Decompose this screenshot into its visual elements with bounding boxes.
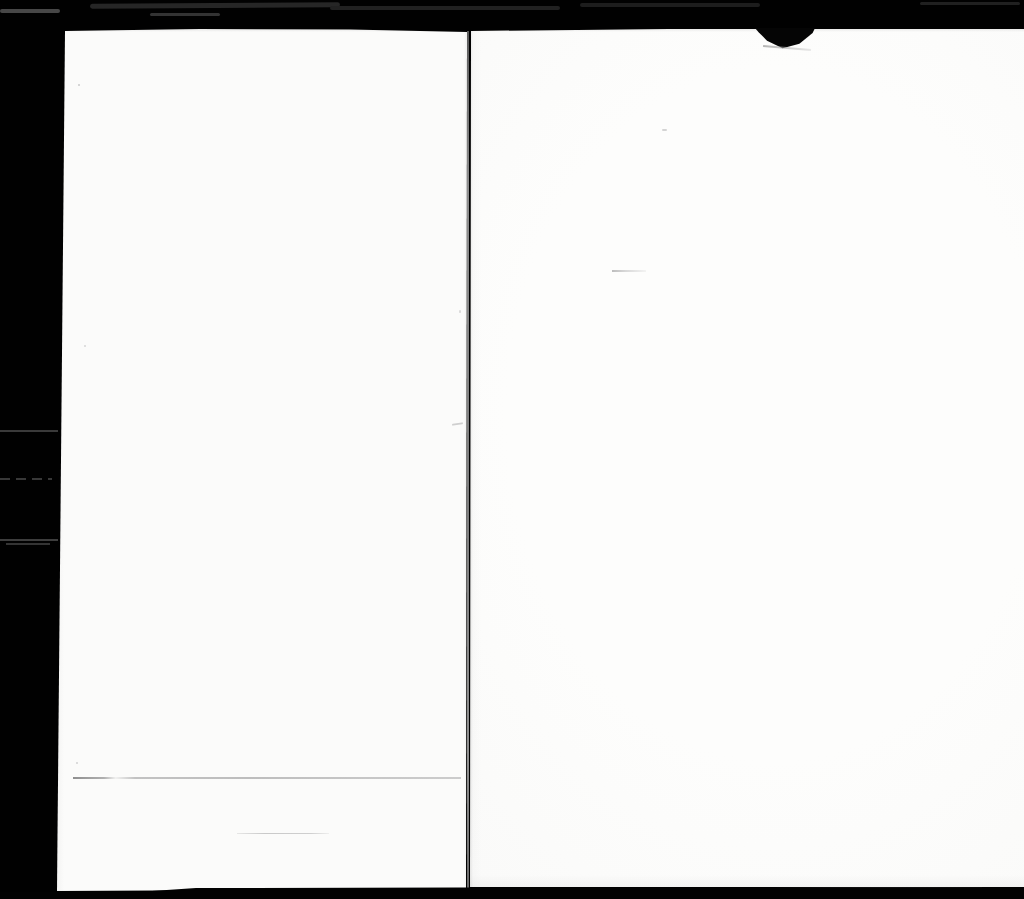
dust-speck <box>459 310 461 313</box>
margin-scratch <box>0 430 58 432</box>
dust-speck <box>78 84 80 86</box>
scanner-streak <box>150 13 220 16</box>
scanner-streak <box>90 2 340 9</box>
dust-speck <box>662 129 667 131</box>
margin-scratch <box>0 478 52 480</box>
right-page <box>469 26 1024 889</box>
margin-scratch <box>0 539 58 541</box>
dust-speck <box>76 762 78 764</box>
scanner-streak <box>0 9 60 13</box>
spine-gutter-line <box>467 31 469 889</box>
left-page <box>50 26 470 894</box>
scanner-streak <box>920 2 1020 5</box>
dust-speck <box>84 345 86 347</box>
scanner-streak <box>330 6 560 10</box>
margin-scratch <box>6 543 50 545</box>
scan-background <box>0 0 1024 899</box>
scanner-streak <box>580 3 760 7</box>
